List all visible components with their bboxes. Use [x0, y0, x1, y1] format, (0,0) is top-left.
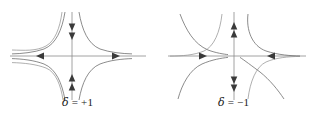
arrow-x-positive-icon — [112, 53, 120, 60]
trajectory-upper-left-outer — [170, 14, 222, 56]
phase-portrait-plot-right — [156, 0, 311, 100]
trajectory-group — [178, 14, 300, 99]
arrow-y-negative-lower-icon — [231, 85, 238, 93]
delta-value: −1 — [237, 96, 249, 108]
trajectory-lower-right — [240, 57, 284, 99]
delta-value: +1 — [81, 96, 93, 108]
arrow-y-positive-lower-icon — [231, 30, 238, 38]
trajectory-lower-left — [178, 57, 228, 99]
arrow-y-positive-lower-icon — [69, 33, 76, 41]
phase-portrait-delta-positive: δ = +1 — [0, 0, 155, 122]
arrow-x-negative-icon — [199, 53, 207, 60]
arrow-x-positive-icon — [267, 53, 275, 60]
trajectory-lower-right-outer — [248, 56, 300, 99]
arrow-y-negative-upper-icon — [231, 77, 238, 85]
caption-delta-positive: δ = +1 — [0, 96, 155, 109]
trajectory-upper-left-outer — [12, 12, 62, 50]
arrow-y-positive-upper-icon — [231, 22, 238, 30]
trajectory-lower-right — [79, 59, 132, 100]
trajectory-upper-right — [79, 12, 132, 54]
trajectory-lower-left-outer — [12, 63, 63, 100]
caption-delta-negative: δ = −1 — [156, 96, 311, 109]
equals-sign: = — [69, 96, 81, 108]
arrow-y-negative-upper-icon — [69, 74, 76, 82]
phase-portrait-plot-left — [0, 0, 155, 100]
trajectory-upper-left — [180, 14, 228, 55]
trajectory-upper-right — [248, 14, 300, 56]
equals-sign: = — [225, 96, 237, 108]
delta-symbol: δ — [218, 96, 225, 109]
phase-portrait-delta-negative: δ = −1 — [156, 0, 311, 122]
arrow-y-negative-lower-icon — [69, 83, 76, 91]
arrow-y-positive-upper-icon — [69, 24, 76, 32]
figure-container: δ = +1 — [0, 0, 311, 122]
delta-symbol: δ — [62, 96, 69, 109]
arrow-x-negative-icon — [36, 53, 44, 60]
